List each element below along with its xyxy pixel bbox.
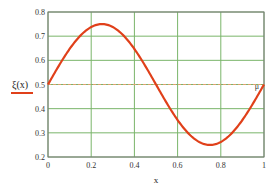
y-tick-label: 0.5 bbox=[35, 81, 45, 90]
y-tick-label: 0.8 bbox=[35, 8, 45, 17]
line-chart: 00.20.40.60.810.20.30.40.50.60.70.8 x μ bbox=[0, 0, 278, 196]
x-tick-label: 0.4 bbox=[129, 161, 139, 170]
x-tick-label: 1 bbox=[262, 161, 266, 170]
x-tick-label: 0.2 bbox=[86, 161, 96, 170]
x-tick-label: 0.8 bbox=[216, 161, 226, 170]
x-tick-label: 0 bbox=[46, 161, 50, 170]
tick-labels: 00.20.40.60.810.20.30.40.50.60.70.8 bbox=[35, 8, 266, 170]
y-tick-label: 0.4 bbox=[35, 105, 45, 114]
y-tick-label: 0.6 bbox=[35, 56, 45, 65]
x-tick-label: 0.6 bbox=[173, 161, 183, 170]
x-axis-label: x bbox=[154, 175, 159, 185]
y-tick-label: 0.3 bbox=[35, 129, 45, 138]
y-tick-label: 0.7 bbox=[35, 32, 45, 41]
trace-marker: μ bbox=[255, 82, 259, 91]
y-tick-label: 0.2 bbox=[35, 153, 45, 162]
